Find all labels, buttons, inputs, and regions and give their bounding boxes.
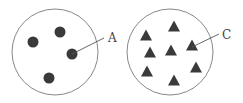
dot-particle: [44, 73, 55, 84]
triangle-particle: [190, 62, 202, 73]
diagram-canvas: A C: [0, 0, 243, 103]
label-c: C: [222, 28, 231, 42]
right-circle-group: [127, 9, 219, 95]
triangle-particle: [168, 75, 180, 86]
leader-line-c: [192, 34, 219, 47]
triangle-particle: [168, 21, 180, 32]
triangle-particle: [165, 45, 177, 56]
left-circle-group: [12, 9, 104, 95]
triangle-particle: [144, 47, 156, 58]
triangle-particle: [141, 66, 153, 77]
dot-particle: [28, 37, 39, 48]
dot-particle: [55, 27, 66, 38]
left-circle-outline: [12, 9, 98, 95]
label-a: A: [107, 31, 117, 45]
triangle-particle: [140, 30, 152, 41]
leader-line-a: [72, 38, 104, 54]
